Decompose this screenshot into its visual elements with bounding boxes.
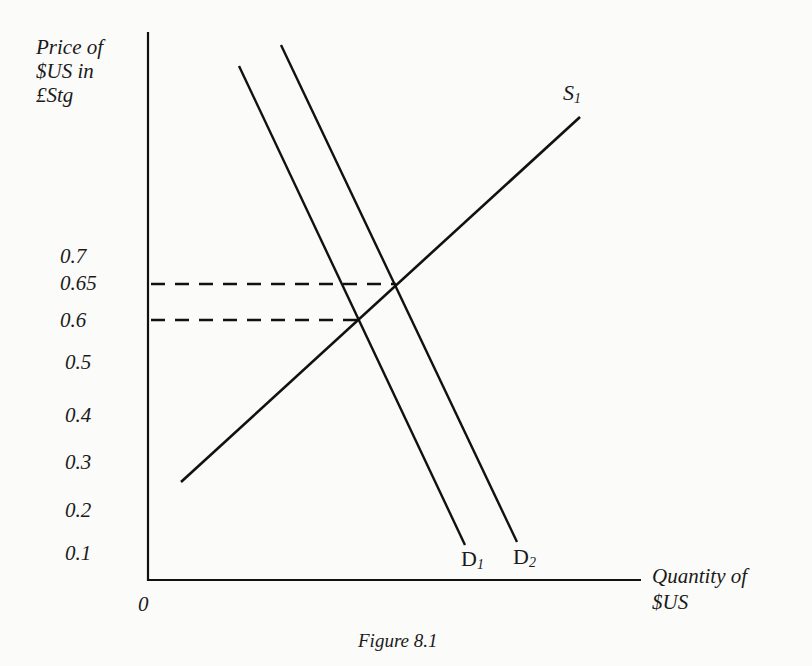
- y-tick-0-6: 0.6: [60, 310, 86, 331]
- demand-curve-d1: [239, 66, 465, 545]
- supply-label-subscript: 1: [574, 91, 581, 106]
- d1-label-subscript: 1: [477, 557, 484, 572]
- demand-curve-d2: [281, 45, 517, 542]
- y-tick-0-1: 0.1: [65, 543, 91, 564]
- supply-label-name: S: [563, 80, 574, 105]
- y-tick-0-7: 0.7: [60, 246, 86, 267]
- d2-label-subscript: 2: [529, 555, 536, 570]
- demand-curve-d2-label: D2: [513, 546, 536, 570]
- supply-curve-label: S1: [563, 82, 581, 106]
- y-tick-0-3: 0.3: [65, 452, 91, 473]
- supply-curve-s1: [181, 117, 580, 482]
- x-axis-label: Quantity of $US: [652, 563, 747, 615]
- y-axis-label-line-2: $US in: [36, 59, 103, 83]
- d2-label-name: D: [513, 544, 529, 569]
- y-axis-label-line-3: £Stg: [36, 83, 103, 107]
- y-tick-0-65: 0.65: [60, 273, 97, 294]
- y-tick-0-4: 0.4: [65, 405, 91, 426]
- demand-curve-d1-label: D1: [461, 548, 484, 572]
- figure-caption: Figure 8.1: [358, 630, 438, 652]
- x-axis-label-line-2: $US: [652, 589, 747, 615]
- origin-label: 0: [138, 594, 149, 615]
- y-tick-0-2: 0.2: [65, 500, 91, 521]
- x-axis-label-line-1: Quantity of: [652, 563, 747, 589]
- y-tick-0-5: 0.5: [65, 352, 91, 373]
- y-axis-label-line-1: Price of: [36, 35, 103, 59]
- y-axis-label: Price of $US in £Stg: [36, 35, 103, 107]
- d1-label-name: D: [461, 546, 477, 571]
